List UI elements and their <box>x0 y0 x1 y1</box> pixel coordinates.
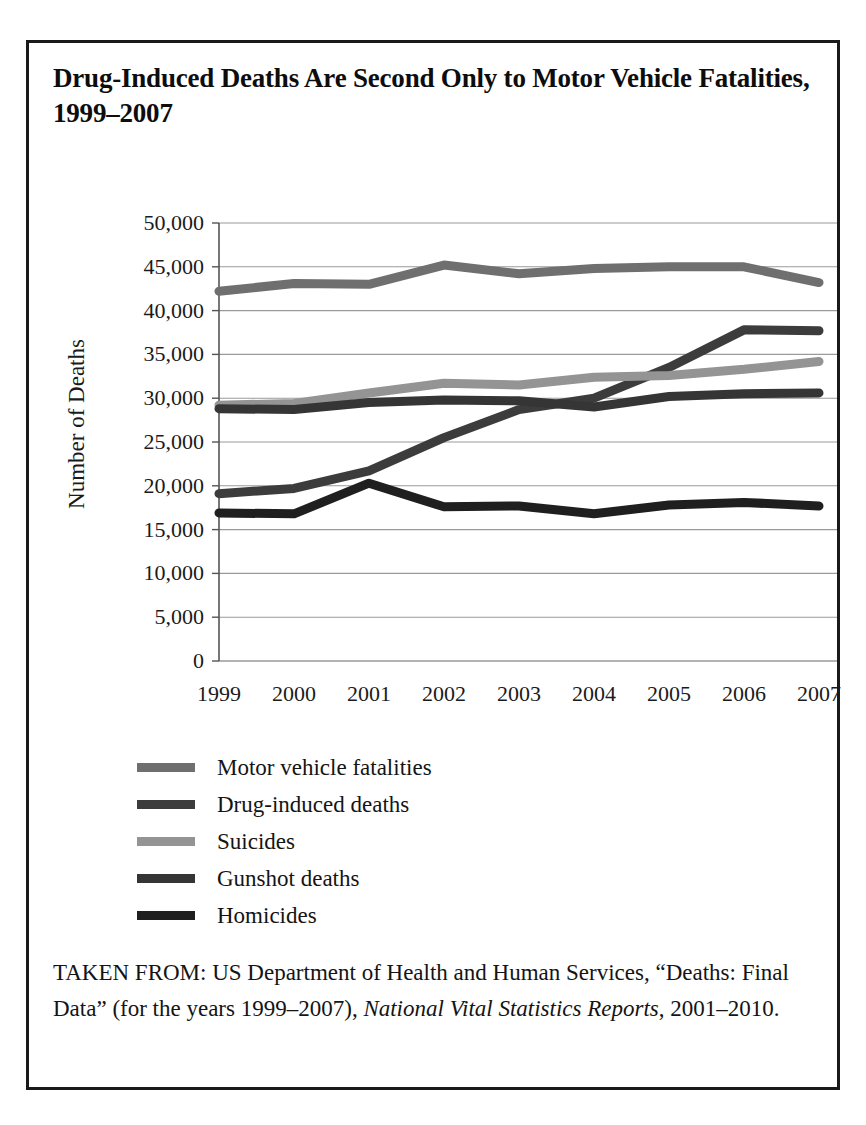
data-series <box>219 265 819 514</box>
legend-item: Suicides <box>137 823 697 860</box>
y-tick-label: 5,000 <box>94 606 204 628</box>
legend-item-label: Homicides <box>217 904 317 927</box>
legend-item-label: Suicides <box>217 830 295 853</box>
x-tick-label: 2002 <box>409 683 479 705</box>
y-axis-title: Number of Deaths <box>64 314 90 534</box>
x-tick-label: 1999 <box>184 683 254 705</box>
y-tick-label: 40,000 <box>94 300 204 322</box>
y-tick-label: 45,000 <box>94 256 204 278</box>
legend-swatch-icon <box>137 800 195 809</box>
source-note: TAKEN FROM: US Department of Health and … <box>53 955 809 1028</box>
y-tick-label: 10,000 <box>94 562 204 584</box>
gridlines <box>219 223 837 661</box>
y-tick-label: 25,000 <box>94 431 204 453</box>
legend-swatch-icon <box>137 837 195 846</box>
y-tick-label: 50,000 <box>94 212 204 234</box>
x-tick-label: 2004 <box>559 683 629 705</box>
legend-item: Homicides <box>137 897 697 934</box>
x-tick-label: 2003 <box>484 683 554 705</box>
source-note-publication: National Vital Statistics Reports <box>363 996 658 1021</box>
legend-item-label: Gunshot deaths <box>217 867 359 890</box>
legend-swatch-icon <box>137 911 195 920</box>
legend-item: Drug-induced deaths <box>137 786 697 823</box>
x-tick-label: 2007 <box>784 683 854 705</box>
line-chart: 05,00010,00015,00020,00025,00030,00035,0… <box>29 161 837 721</box>
legend-item-label: Motor vehicle fatalities <box>217 756 432 779</box>
y-tick-label: 20,000 <box>94 475 204 497</box>
y-tick-label: 0 <box>94 650 204 672</box>
y-tick-label: 35,000 <box>94 343 204 365</box>
series-line <box>219 265 819 291</box>
legend-swatch-icon <box>137 763 195 772</box>
legend-item: Gunshot deaths <box>137 860 697 897</box>
x-tick-label: 2000 <box>259 683 329 705</box>
figure-title: Drug-Induced Deaths Are Second Only to M… <box>53 61 813 130</box>
legend-swatch-icon <box>137 874 195 883</box>
figure-frame: Drug-Induced Deaths Are Second Only to M… <box>26 40 840 1090</box>
x-tick-label: 2005 <box>634 683 704 705</box>
source-note-tail: , 2001–2010. <box>659 996 780 1021</box>
y-tick-label: 15,000 <box>94 519 204 541</box>
y-tick-label: 30,000 <box>94 387 204 409</box>
chart-legend: Motor vehicle fatalitiesDrug-induced dea… <box>137 749 697 934</box>
legend-item-label: Drug-induced deaths <box>217 793 409 816</box>
legend-item: Motor vehicle fatalities <box>137 749 697 786</box>
x-tick-label: 2006 <box>709 683 779 705</box>
x-tick-label: 2001 <box>334 683 404 705</box>
